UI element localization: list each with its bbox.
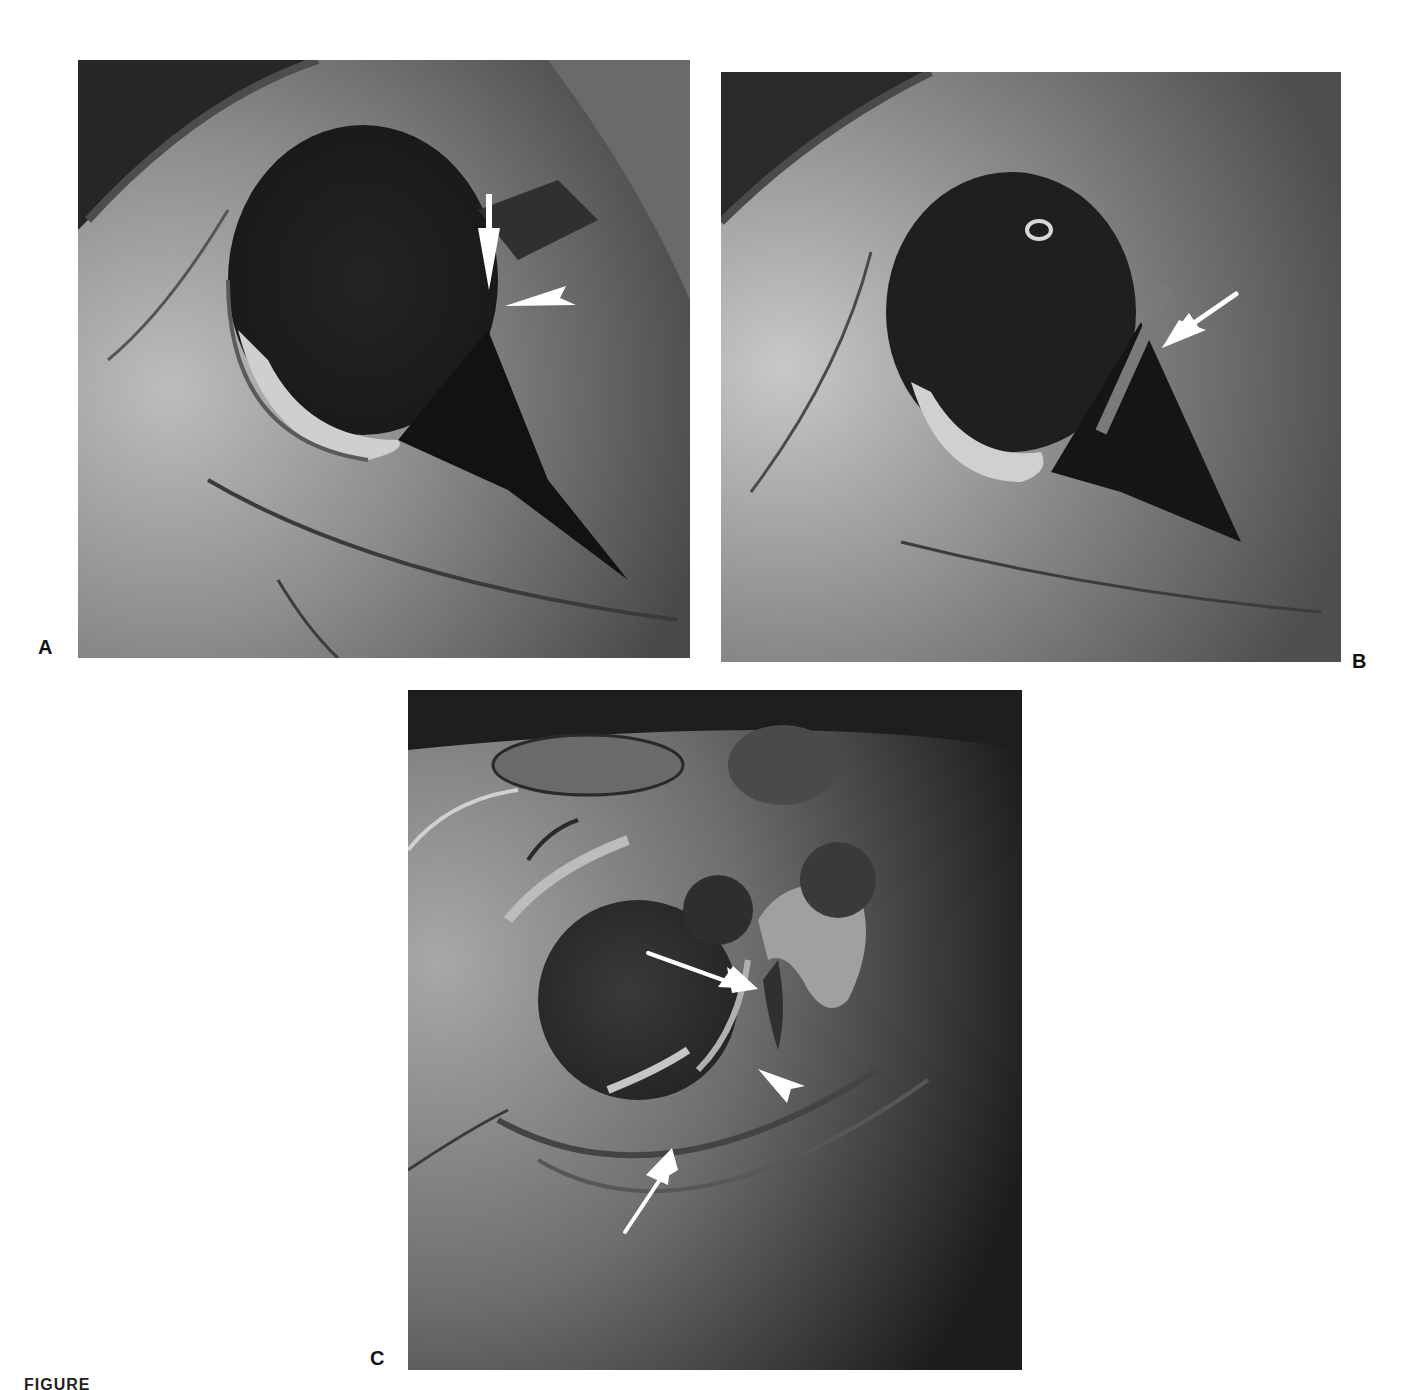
panel-label-b: B bbox=[1352, 650, 1366, 673]
mri-image-c bbox=[408, 690, 1022, 1370]
mri-panel-a bbox=[78, 60, 690, 658]
figure-caption: FIGURE bbox=[24, 1376, 90, 1390]
panel-label-a: A bbox=[38, 636, 52, 659]
mri-panel-c bbox=[408, 690, 1022, 1370]
mri-image-a bbox=[78, 60, 690, 658]
panel-label-c: C bbox=[370, 1347, 384, 1370]
mri-image-b bbox=[721, 72, 1341, 662]
mri-panel-b bbox=[721, 72, 1341, 662]
